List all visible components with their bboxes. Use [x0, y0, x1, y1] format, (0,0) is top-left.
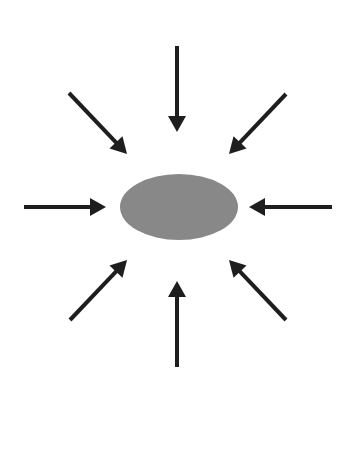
center-ellipse: [120, 174, 238, 240]
convergence-diagram: [0, 0, 356, 471]
